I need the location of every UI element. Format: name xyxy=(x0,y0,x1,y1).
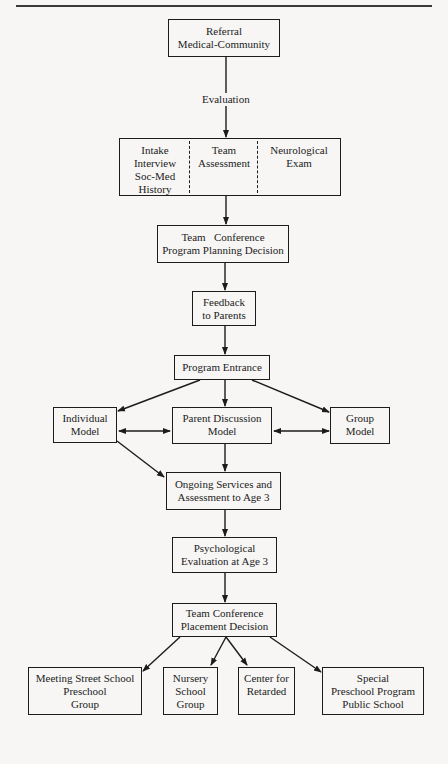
node-text: Model xyxy=(208,425,237,438)
connector-arrows xyxy=(0,0,448,764)
node-text: Feedback xyxy=(203,296,245,309)
cell-intake-interview: Intake Interview Soc-Med History xyxy=(120,139,190,195)
node-text: Group xyxy=(176,698,204,711)
node-center-retarded: Center for Retarded xyxy=(238,667,295,715)
node-text: Program Planning Decision xyxy=(162,244,284,257)
node-text: Team Conference xyxy=(181,231,264,244)
node-text: Special xyxy=(357,672,389,685)
node-text: Program Entrance xyxy=(182,361,262,374)
node-team-conference-placement: Team Conference Placement Decision xyxy=(172,603,277,637)
node-text: Assessment xyxy=(190,157,258,170)
node-text: Medical-Community xyxy=(178,38,270,51)
node-text: to Parents xyxy=(202,309,246,322)
node-ongoing-services: Ongoing Services and Assessment to Age 3 xyxy=(166,472,281,510)
node-meeting-street: Meeting Street School Preschool Group xyxy=(28,667,142,715)
node-feedback: Feedback to Parents xyxy=(192,291,256,326)
node-psychological-evaluation: Psychological Evaluation at Age 3 xyxy=(172,537,277,573)
node-text: Individual xyxy=(62,412,107,425)
node-text: Team xyxy=(190,144,258,157)
node-text: History xyxy=(120,183,190,196)
node-evaluation: Intake Interview Soc-Med History Team As… xyxy=(119,138,341,196)
node-referral: Referral Medical-Community xyxy=(168,19,280,57)
node-text: Assessment to Age 3 xyxy=(178,491,270,504)
node-text: Interview xyxy=(120,157,190,170)
node-text: Intake xyxy=(120,144,190,157)
node-text: Retarded xyxy=(247,685,287,698)
node-text: Referral xyxy=(206,25,242,38)
node-text: Preschool Program xyxy=(331,685,415,698)
edge-label-evaluation: Evaluation xyxy=(201,93,251,106)
node-text: Model xyxy=(71,425,100,438)
node-group-model: Group Model xyxy=(330,407,390,444)
node-text: Group xyxy=(346,412,374,425)
node-text: Group xyxy=(71,698,99,711)
node-individual-model: Individual Model xyxy=(53,407,117,443)
node-text: School xyxy=(175,685,206,698)
node-text: Public School xyxy=(342,698,403,711)
node-text: Model xyxy=(346,425,375,438)
node-text: Soc-Med xyxy=(120,170,190,183)
node-text: Parent Discussion xyxy=(182,412,261,425)
node-text: Nursery xyxy=(173,672,208,685)
cell-team-assessment: Team Assessment xyxy=(190,139,258,195)
node-parent-discussion-model: Parent Discussion Model xyxy=(172,407,272,444)
node-nursery-school: Nursery School Group xyxy=(163,667,218,715)
node-text: Meeting Street School xyxy=(36,672,134,685)
node-text: Preschool xyxy=(63,685,106,698)
node-text: Center for xyxy=(244,672,289,685)
node-program-entrance: Program Entrance xyxy=(174,355,270,380)
node-text: Ongoing Services and xyxy=(175,478,272,491)
node-text: Placement Decision xyxy=(181,620,269,633)
node-team-conference-planning: Team Conference Program Planning Decisio… xyxy=(157,225,289,263)
node-text: Psychological xyxy=(194,542,256,555)
node-text: Evaluation at Age 3 xyxy=(181,555,268,568)
node-text: Neurological xyxy=(258,144,340,157)
node-special-preschool: Special Preschool Program Public School xyxy=(322,667,424,715)
node-text: Team Conference xyxy=(186,607,264,620)
cell-neurological-exam: Neurological Exam xyxy=(258,139,340,195)
node-text: Exam xyxy=(258,157,340,170)
